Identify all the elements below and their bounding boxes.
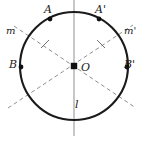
line-label-m-prime: m' (124, 26, 136, 36)
dashed-line-m-prime (8, 25, 133, 108)
point-label-A-prime: A' (95, 4, 106, 15)
point-marker-O (71, 63, 77, 69)
geometry-figure: A A' B B' O m m' l (0, 0, 143, 146)
figure-canvas (0, 0, 143, 146)
line-label-l: l (75, 99, 79, 110)
point-label-B: B (9, 59, 17, 70)
point-label-B-prime: B' (124, 59, 135, 70)
point-marker-B (19, 65, 24, 70)
line-label-m: m (6, 26, 15, 36)
point-marker-A (48, 17, 53, 22)
point-label-A: A (44, 4, 52, 15)
point-marker-A-prime (97, 17, 102, 22)
point-label-O: O (81, 62, 90, 73)
